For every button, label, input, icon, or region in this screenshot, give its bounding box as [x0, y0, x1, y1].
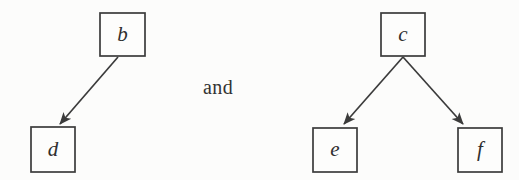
node-d-label: d — [48, 137, 59, 161]
left-graph: b d — [31, 13, 145, 172]
edge-c-to-f — [403, 57, 463, 124]
node-e[interactable]: e — [313, 128, 357, 172]
figure-container: b d and c e f — [0, 0, 519, 180]
conjunction-label: and — [203, 76, 233, 98]
node-b[interactable]: b — [100, 13, 145, 56]
node-d[interactable]: d — [31, 127, 75, 172]
right-graph: c e f — [313, 13, 502, 172]
node-c[interactable]: c — [381, 13, 425, 56]
edge-c-to-e — [344, 57, 403, 124]
node-c-label: c — [398, 22, 408, 46]
node-f[interactable]: f — [458, 128, 502, 172]
graph-figure: b d and c e f — [0, 0, 519, 180]
node-b-label: b — [117, 22, 128, 46]
node-e-label: e — [330, 137, 339, 161]
edge-b-to-d — [60, 57, 118, 124]
